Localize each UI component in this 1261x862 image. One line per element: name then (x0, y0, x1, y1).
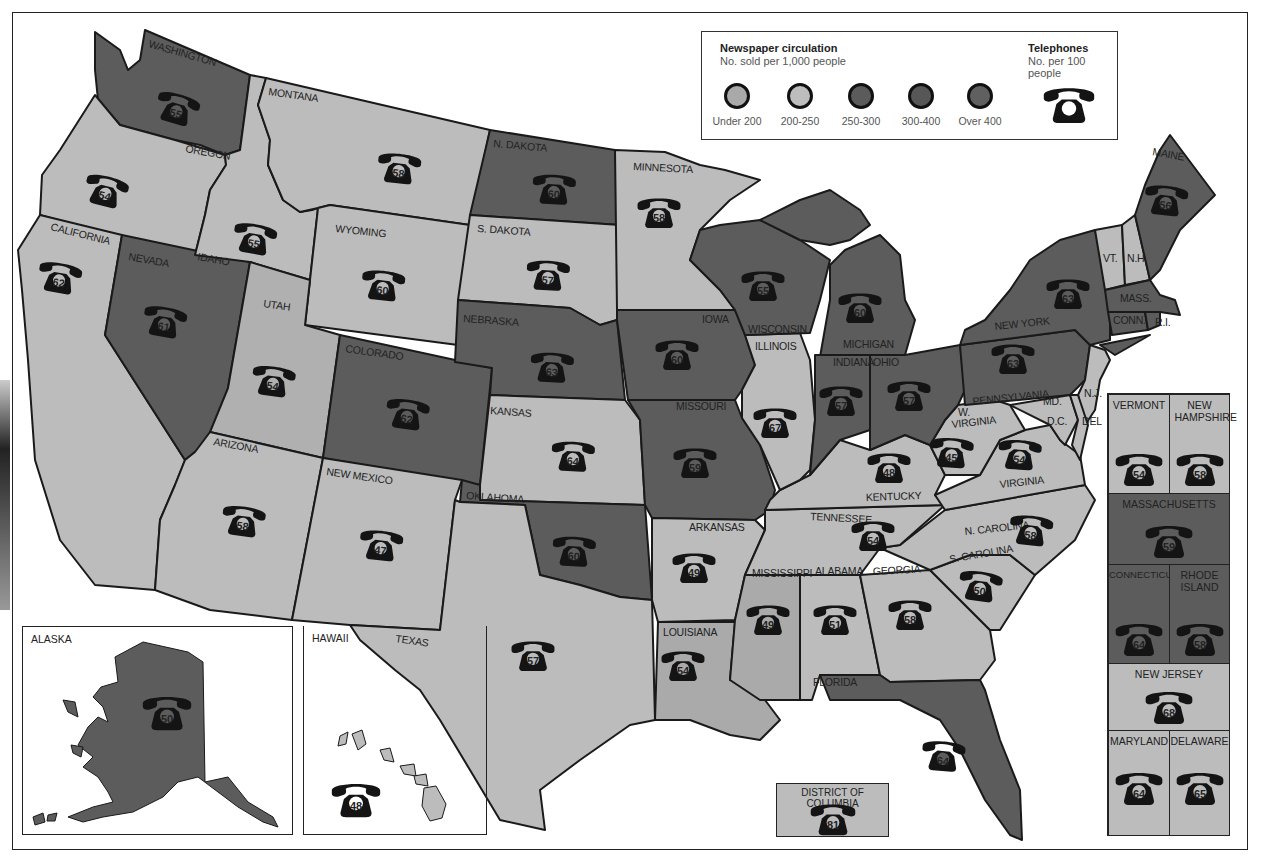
label-vt: VT. (1103, 252, 1118, 264)
phone-florida: 64 (921, 740, 966, 773)
svg-text:58: 58 (392, 167, 405, 180)
svg-text:55: 55 (757, 285, 769, 297)
svg-text:68: 68 (1163, 707, 1175, 719)
inset-dc[interactable]: DISTRICT OF COLUMBIA 81 (776, 783, 889, 837)
svg-text:57: 57 (527, 655, 539, 667)
label-kentucky: KENTUCKY (866, 489, 922, 503)
hawaii-island (352, 730, 366, 750)
hawaii-island-big (422, 786, 446, 821)
svg-text:54: 54 (867, 535, 880, 547)
label-arkansas: ARKANSAS (689, 521, 745, 533)
svg-text:58: 58 (1193, 639, 1205, 651)
svg-text:67: 67 (769, 422, 781, 434)
alaska-island (47, 813, 57, 821)
legend-telephone-title: Telephones (1028, 42, 1088, 54)
svg-text:50: 50 (161, 713, 173, 725)
label-louisiana: LOUISIANA (663, 626, 717, 638)
svg-text:54: 54 (677, 665, 690, 677)
swatch-300-400 (908, 83, 934, 109)
svg-text:61: 61 (157, 320, 171, 334)
swatch-200-250 (787, 83, 813, 109)
legend-newspaper-subtitle: No. sold per 1,000 people (720, 55, 846, 67)
label-mass: MASS. (1120, 292, 1152, 304)
svg-text:63: 63 (545, 366, 558, 379)
swatch-label: Under 200 (702, 115, 772, 127)
ne-cell-new-hampshire[interactable]: NEW HAMPSHIRE 58 (1169, 394, 1230, 494)
label-dc: D.C. (1047, 415, 1067, 427)
label-iowa: IOWA (702, 313, 729, 325)
svg-text:64: 64 (936, 754, 950, 767)
label-wisconsin: WISCONSIN (748, 323, 807, 335)
svg-text:57: 57 (903, 395, 915, 407)
svg-text:60: 60 (567, 550, 580, 563)
label-del: DEL (1082, 415, 1102, 427)
svg-text:60: 60 (671, 354, 683, 366)
ne-cell-delaware[interactable]: DELAWARE 65 (1169, 730, 1230, 836)
label-mississippi: MISSISSIPPI (752, 567, 812, 579)
label-ohio: OHIO (873, 356, 899, 368)
svg-text:64: 64 (1133, 788, 1146, 800)
svg-text:58: 58 (236, 519, 250, 533)
ne-cell-new-jersey[interactable]: NEW JERSEY 68 (1108, 663, 1230, 731)
label-alabama: ALABAMA (815, 565, 863, 577)
svg-text:63: 63 (1007, 358, 1019, 370)
ne-cell-massachusetts[interactable]: MASSACHUSETTS 59 (1108, 493, 1230, 565)
us-newspaper-telephone-map: WASHINGTON OREGON CALIFORNIA IDAHO NEVAD… (0, 0, 1261, 862)
svg-text:60: 60 (376, 284, 389, 297)
svg-text:81: 81 (827, 819, 839, 831)
ne-cell-vermont[interactable]: VERMONT 54 (1108, 394, 1170, 494)
svg-text:59: 59 (1163, 541, 1175, 553)
svg-text:63: 63 (1062, 293, 1074, 305)
label-georgia: GEORGIA (872, 563, 920, 577)
ne-cell-maryland[interactable]: MARYLAND 64 (1108, 730, 1170, 836)
alaska-island (71, 745, 83, 757)
ne-cell-connecticut[interactable]: CONNECTICUT 64 (1108, 564, 1170, 664)
label-nj: N.J. (1084, 387, 1102, 399)
hawaii-island (380, 748, 394, 762)
label-ri: R.I. (1155, 316, 1171, 328)
label-nh: N.H. (1127, 252, 1147, 264)
label-indiana: INDIANA (833, 356, 874, 368)
svg-text:65: 65 (1193, 788, 1205, 800)
svg-text:59: 59 (689, 462, 701, 474)
label-conn: CONN. (1113, 314, 1146, 326)
svg-text:57: 57 (835, 400, 847, 412)
alaska-island (33, 813, 45, 825)
svg-text:54: 54 (1013, 453, 1027, 466)
svg-text:62: 62 (400, 412, 414, 426)
svg-text:58: 58 (653, 212, 665, 224)
svg-text:64: 64 (566, 455, 580, 468)
svg-text:49: 49 (688, 567, 700, 579)
svg-text:47: 47 (374, 544, 387, 557)
legend-newspaper-title: Newspaper circulation (720, 42, 837, 54)
svg-text:60: 60 (547, 188, 560, 201)
svg-text:55: 55 (247, 237, 261, 251)
svg-text:62: 62 (52, 276, 66, 290)
state-mississippi[interactable] (730, 575, 800, 700)
northeast-panel: VERMONT 54 NEW HAMPSHIRE 58 MASSACHUSETT… (1107, 393, 1230, 836)
svg-text:45: 45 (945, 451, 958, 464)
svg-text:48: 48 (350, 800, 362, 812)
label-illinois: ILLINOIS (755, 340, 797, 352)
label-missouri: MISSOURI (676, 400, 726, 412)
label-md: MD. (1043, 395, 1062, 407)
svg-text:54: 54 (1133, 469, 1146, 481)
svg-text:49: 49 (762, 619, 774, 631)
svg-text:58: 58 (1024, 529, 1037, 542)
hawaii-island (414, 774, 428, 786)
state-wyoming[interactable] (305, 205, 470, 345)
telephone-icon (1042, 84, 1096, 124)
legend-telephone-subtitle: No. per 100 people (1028, 55, 1117, 79)
alaska-island (63, 700, 78, 717)
svg-text:58: 58 (904, 614, 916, 626)
swatch-over-400 (967, 83, 993, 109)
svg-text:60: 60 (854, 307, 866, 319)
svg-text:64: 64 (1133, 639, 1146, 651)
state-alaska[interactable] (68, 642, 278, 827)
swatch-label: Over 400 (945, 115, 1015, 127)
swatch-under-200 (724, 83, 750, 109)
svg-text:48: 48 (883, 467, 895, 479)
ne-cell-rhode-island[interactable]: RHODE ISLAND 58 (1169, 564, 1230, 664)
label-florida: FLORIDA (813, 676, 857, 688)
svg-text:56: 56 (1159, 199, 1172, 212)
